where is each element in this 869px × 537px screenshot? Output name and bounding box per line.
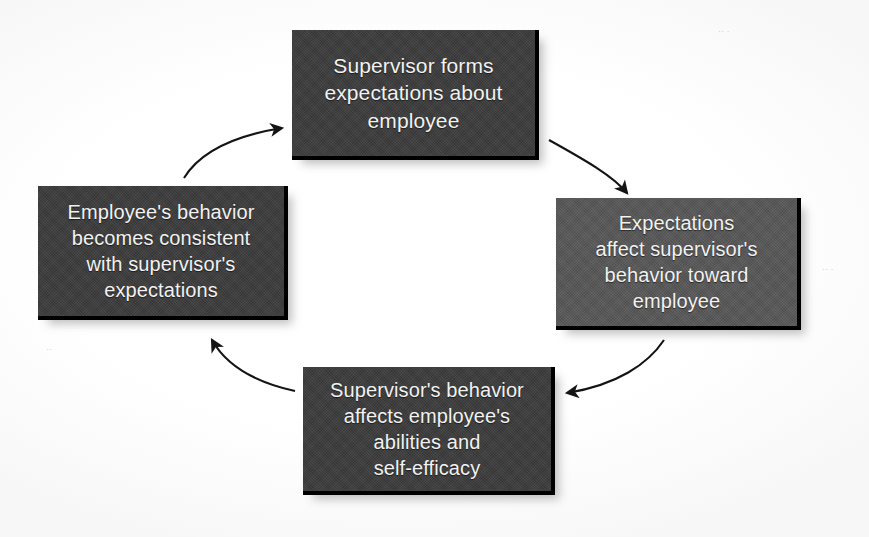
arrow-right-to-bottom <box>567 340 664 393</box>
node-employee-behavior-becomes-consistent[interactable]: Employee's behavior becomes consistent w… <box>38 186 288 320</box>
scan-speck-mid-right: ·· · <box>822 264 834 274</box>
node-left-line-3: with supervisor's <box>46 251 276 277</box>
scan-speck-left: ·· <box>46 344 52 354</box>
node-bottom-line-1: Supervisor's behavior <box>311 377 543 403</box>
node-bottom-text-block: Supervisor's behavior affects employee's… <box>303 377 551 481</box>
node-bottom-line-3: abilities and <box>311 429 543 455</box>
node-bottom-line-4: self-efficacy <box>311 455 543 481</box>
node-right-line-4: employee <box>564 288 789 314</box>
node-supervisor-forms-expectations[interactable]: Supervisor forms expectations about empl… <box>292 30 539 160</box>
arrow-top-to-right <box>549 140 627 193</box>
node-left-line-2: becomes consistent <box>46 225 276 251</box>
node-left-line-1: Employee's behavior <box>46 199 276 225</box>
node-right-line-3: behavior toward <box>564 262 789 288</box>
node-left-line-4: expectations <box>46 277 276 303</box>
arrow-bottom-to-left <box>212 340 295 391</box>
node-right-text-block: Expectations affect supervisor's behavio… <box>556 210 797 314</box>
scan-speck-top-right: ·· · <box>718 26 730 36</box>
node-top-text-block: Supervisor forms expectations about empl… <box>292 52 535 134</box>
node-left-text-block: Employee's behavior becomes consistent w… <box>38 199 284 303</box>
diagram-canvas: Supervisor forms expectations about empl… <box>0 0 869 537</box>
node-top-line-2: expectations about <box>300 79 527 106</box>
node-bottom-line-2: affects employee's <box>311 403 543 429</box>
node-supervisor-behavior-affects-abilities[interactable]: Supervisor's behavior affects employee's… <box>303 367 555 495</box>
node-right-line-2: affect supervisor's <box>564 236 789 262</box>
arrow-left-to-top <box>184 128 282 178</box>
node-top-line-1: Supervisor forms <box>300 52 527 79</box>
node-top-line-3: employee <box>300 107 527 134</box>
node-expectations-affect-supervisor-behavior[interactable]: Expectations affect supervisor's behavio… <box>556 198 801 330</box>
node-right-line-1: Expectations <box>564 210 789 236</box>
